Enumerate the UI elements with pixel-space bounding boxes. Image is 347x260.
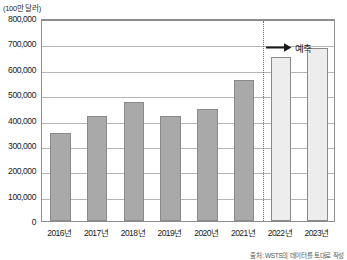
bar-2018년 (124, 102, 145, 221)
y-axis-tick-label: 100,000 (0, 192, 36, 202)
bar-2020년 (197, 109, 218, 221)
y-axis-tick-label: 600,000 (0, 65, 36, 75)
bar-2022년 (271, 57, 292, 221)
x-axis-tick-label: 2022년 (268, 226, 292, 238)
y-axis-tick-label: 500,000 (0, 90, 36, 100)
x-axis-tick-label: 2018년 (121, 226, 145, 238)
y-axis-tick-label: 300,000 (0, 141, 36, 151)
x-axis-tick-label: 2023년 (304, 226, 328, 238)
y-axis-tick-label: 0 (0, 217, 36, 227)
right-arrow-icon (266, 43, 292, 52)
source-note: 출처: WSTS의 데이터를 토대로 작성 (250, 250, 344, 260)
bar-2023년 (307, 48, 328, 221)
x-axis-tick-label: 2016년 (47, 226, 71, 238)
bar-2021년 (234, 80, 255, 221)
y-axis-tick-label: 700,000 (0, 39, 36, 49)
y-axis-tick-label: 800,000 (0, 14, 36, 24)
forecast-divider-line (263, 21, 264, 221)
forecast-annotation-label: 예측 (295, 41, 312, 55)
bar-2016년 (50, 133, 71, 221)
x-axis-tick-label: 2020년 (194, 226, 218, 238)
y-axis-tick-label: 200,000 (0, 166, 36, 176)
x-axis-tick-label: 2017년 (84, 226, 108, 238)
bar-2019년 (160, 116, 181, 221)
forecast-annotation: 예측 (266, 41, 312, 55)
x-axis-tick-label: 2019년 (157, 226, 181, 238)
y-axis-unit-label: (100만 달러) (3, 2, 41, 13)
bar-2017년 (87, 116, 108, 221)
x-axis-tick-label: 2021년 (231, 226, 255, 238)
y-axis-tick-label: 400,000 (0, 116, 36, 126)
